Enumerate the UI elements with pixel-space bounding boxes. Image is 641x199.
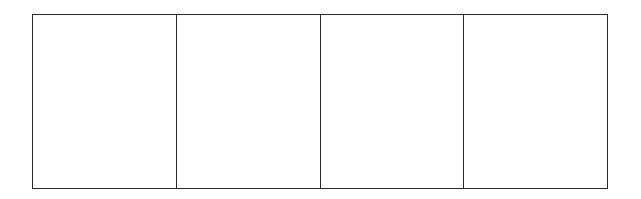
grid-cell-1 bbox=[33, 15, 177, 188]
grid-cell-3 bbox=[321, 15, 465, 188]
grid-cell-4 bbox=[464, 15, 607, 188]
four-panel-grid bbox=[32, 14, 608, 189]
grid-cell-2 bbox=[177, 15, 321, 188]
